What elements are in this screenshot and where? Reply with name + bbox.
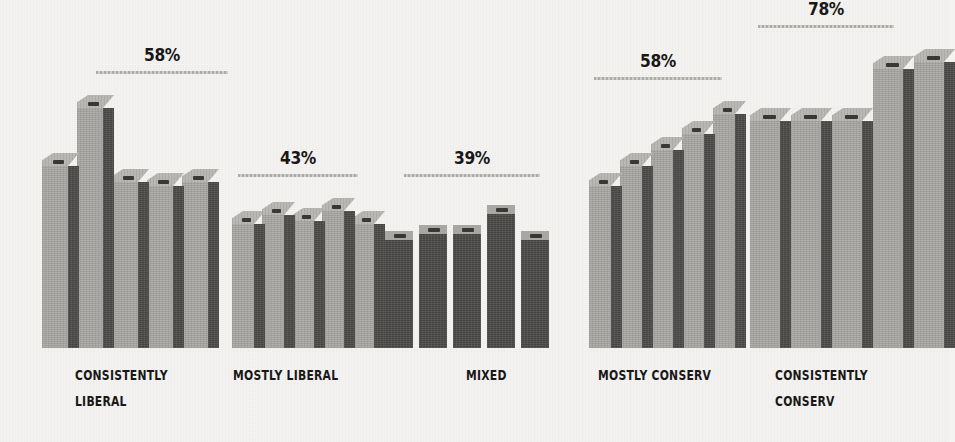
- bar-top-slot: [394, 234, 406, 238]
- bar-top-slot: [630, 160, 639, 164]
- category-label: MOSTLY LIBERAL: [233, 362, 338, 388]
- category-label-line: MOSTLY CONSERV: [598, 362, 711, 388]
- bar-front-face: [791, 115, 821, 348]
- bar-side-face: [284, 215, 295, 348]
- bar-top-slot: [53, 160, 64, 164]
- bar: [419, 225, 447, 348]
- category-label-line: LIBERAL: [75, 388, 168, 414]
- bar: [42, 160, 68, 348]
- bar-front-face: [112, 176, 138, 348]
- bar-top-slot: [661, 144, 670, 148]
- bar-side-face: [314, 221, 325, 348]
- bar-side-face: [862, 121, 873, 348]
- bar-top-slot: [530, 234, 542, 238]
- callout-rule: [96, 71, 228, 74]
- category-label: CONSISTENTLYLIBERAL: [75, 362, 168, 414]
- bar-side-face: [103, 108, 114, 348]
- bar: [914, 56, 944, 348]
- category-label-line: MOSTLY LIBERAL: [233, 362, 338, 388]
- callout-percentage: 43%: [246, 149, 349, 167]
- bar-front-face: [292, 215, 314, 348]
- bar-side-face: [735, 114, 746, 348]
- bar: [651, 144, 673, 348]
- bar-front-face: [521, 231, 549, 348]
- bar-front-face: [620, 160, 642, 348]
- bar-front-face: [385, 231, 413, 348]
- bar-top-slot: [193, 176, 204, 180]
- value-callout: 58%: [594, 52, 722, 80]
- bar-front-face: [832, 115, 862, 348]
- category-label-line: MIXED: [466, 362, 507, 388]
- bar: [262, 209, 284, 348]
- value-callout: 39%: [404, 149, 540, 177]
- bar-top-slot: [332, 205, 341, 209]
- callout-percentage: 58%: [105, 46, 219, 64]
- bar-side-face: [611, 186, 622, 348]
- callout-rule: [404, 174, 540, 177]
- bar-front-face: [262, 209, 284, 348]
- bar-side-face: [208, 182, 219, 348]
- bar-front-face: [589, 180, 611, 348]
- bar-top-slot: [723, 108, 732, 112]
- bar: [521, 231, 549, 348]
- bar: [791, 115, 821, 348]
- callout-rule: [238, 174, 358, 177]
- bar-front-face: [873, 63, 903, 348]
- bar-top-slot: [242, 218, 251, 222]
- bar: [292, 215, 314, 348]
- callout-percentage: 39%: [414, 149, 531, 167]
- bar-side-face: [173, 186, 184, 348]
- bar-front-face: [914, 56, 944, 348]
- bar-top-slot: [272, 209, 281, 213]
- bar-front-face: [147, 180, 173, 348]
- bar: [832, 115, 862, 348]
- bar-side-face: [944, 62, 955, 348]
- bar-top-slot: [462, 228, 474, 232]
- bar-top-slot: [158, 180, 169, 184]
- bar-side-face: [673, 150, 684, 348]
- bar: [182, 176, 208, 348]
- callout-rule: [594, 77, 722, 80]
- bar-side-face: [68, 166, 79, 348]
- bar-front-face: [232, 218, 254, 348]
- value-callout: 43%: [238, 149, 358, 177]
- bar: [589, 180, 611, 348]
- category-label-line: CONSISTENTLY: [775, 362, 868, 388]
- bar: [77, 102, 103, 348]
- bar: [750, 115, 780, 348]
- bar-top-slot: [763, 115, 776, 119]
- bar-top-slot: [804, 115, 817, 119]
- bar: [147, 180, 173, 348]
- bar-front-face: [77, 102, 103, 348]
- bar-side-face: [138, 182, 149, 348]
- bar-top-slot: [302, 215, 311, 219]
- bar-side-face: [374, 224, 385, 348]
- bar-top-slot: [362, 218, 371, 222]
- bar-front-face: [651, 144, 673, 348]
- bar: [352, 218, 374, 348]
- bar: [232, 218, 254, 348]
- category-label-line: CONSISTENTLY: [75, 362, 168, 388]
- bar-front-face: [682, 128, 704, 348]
- bar-side-face: [821, 121, 832, 348]
- bar: [620, 160, 642, 348]
- bar-top-slot: [496, 208, 508, 212]
- bar: [385, 231, 413, 348]
- bar: [322, 205, 344, 348]
- bar-side-face: [344, 211, 355, 348]
- bar-top-slot: [927, 56, 940, 60]
- bar-side-face: [704, 134, 715, 348]
- bar-side-face: [903, 69, 914, 348]
- bar-front-face: [487, 205, 515, 348]
- category-label-line: CONSERV: [775, 388, 868, 414]
- bar-front-face: [322, 205, 344, 348]
- bar-side-face: [780, 121, 791, 348]
- bar: [453, 225, 481, 348]
- bar-top-slot: [123, 176, 134, 180]
- bar-front-face: [713, 108, 735, 348]
- value-callout: 58%: [96, 46, 228, 74]
- bar-front-face: [352, 218, 374, 348]
- category-label: MOSTLY CONSERV: [598, 362, 711, 388]
- bar-side-face: [642, 166, 653, 348]
